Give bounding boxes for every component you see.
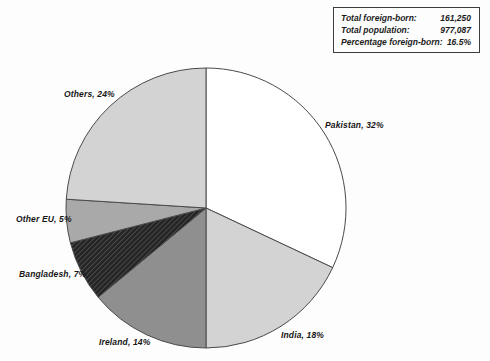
slice-label-other-eu: Other EU, 5% — [16, 214, 72, 224]
pie-chart — [0, 0, 490, 361]
slice-label-india: India, 18% — [281, 330, 324, 340]
slice-label-ireland: Ireland, 14% — [99, 337, 150, 347]
slice-label-others: Others, 24% — [64, 89, 115, 99]
slice-label-pakistan: Pakistan, 32% — [325, 120, 384, 130]
pie-chart-figure: Total foreign-born: 161,250 Total popula… — [0, 0, 490, 361]
slice-label-bangladesh: Bangladesh, 7% — [19, 269, 86, 279]
